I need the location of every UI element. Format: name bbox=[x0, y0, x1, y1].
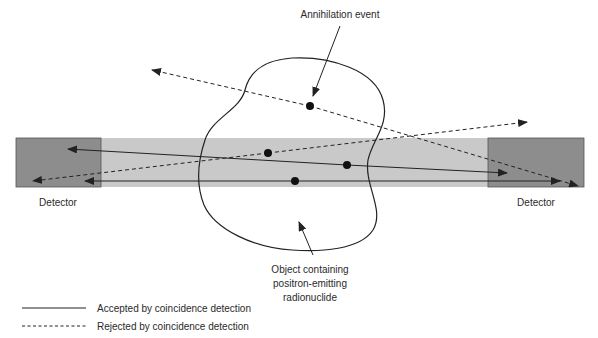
event-dot bbox=[306, 102, 314, 110]
detector-left-label: Detector bbox=[39, 197, 77, 208]
event-dot bbox=[291, 177, 299, 185]
pet-coincidence-diagram: Annihilation event Detector Detector Obj… bbox=[0, 0, 598, 338]
event-dot bbox=[264, 149, 272, 157]
legend-rejected-label: Rejected by coincidence detection bbox=[97, 321, 249, 332]
object-label-line3: radionuclide bbox=[283, 292, 337, 303]
object-label-line1: Object containing bbox=[271, 264, 348, 275]
object-label-line2: positron-emitting bbox=[273, 278, 347, 289]
annihilation-callout-arrow bbox=[313, 26, 340, 96]
legend: Accepted by coincidence detection Reject… bbox=[22, 303, 251, 332]
event-dot bbox=[343, 161, 351, 169]
detector-right bbox=[488, 138, 584, 187]
detector-right-label: Detector bbox=[517, 197, 555, 208]
annihilation-event-label: Annihilation event bbox=[301, 9, 380, 20]
detector-left bbox=[16, 138, 101, 187]
legend-accepted-label: Accepted by coincidence detection bbox=[97, 303, 251, 314]
rejected-line-1 bbox=[152, 70, 310, 106]
